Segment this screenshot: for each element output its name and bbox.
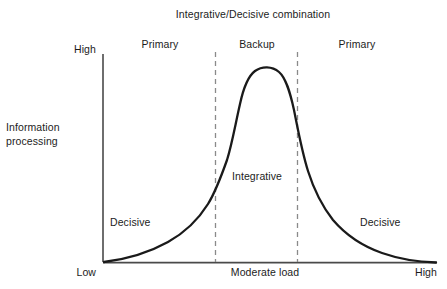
x-axis-tick-moderate-load: Moderate load (231, 266, 299, 279)
region-label-integrative: Integrative (232, 170, 282, 183)
chart-title: Integrative/Decisive combination (176, 8, 330, 21)
information-processing-curve (104, 67, 436, 262)
x-axis-tick-high: High (415, 266, 437, 279)
y-axis-title: Information processing (6, 120, 92, 148)
zone-label-primary-right: Primary (339, 38, 376, 51)
chart-figure: Integrative/Decisive combination Primary… (0, 0, 447, 289)
region-label-decisive-left: Decisive (110, 216, 150, 229)
y-axis-tick-high: High (74, 43, 96, 56)
zone-label-primary-left: Primary (142, 38, 179, 51)
zone-label-backup: Backup (239, 38, 275, 51)
y-axis-tick-low: Low (76, 266, 96, 279)
region-label-decisive-right: Decisive (360, 216, 400, 229)
